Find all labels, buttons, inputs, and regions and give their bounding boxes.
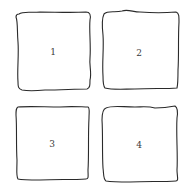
box-1-label: 1 [50,48,56,57]
box-4-label: 4 [136,141,142,150]
box-2-label: 2 [136,49,142,58]
diagram-canvas: 1 2 3 4 [0,0,191,188]
box-3-label: 3 [49,140,55,149]
boxes-drawing [0,0,191,188]
